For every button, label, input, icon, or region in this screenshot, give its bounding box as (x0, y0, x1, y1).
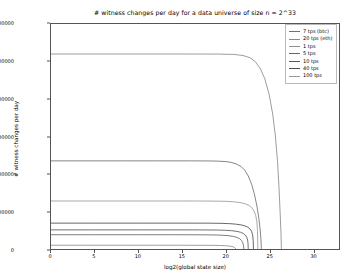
x-tick-mark (94, 250, 95, 253)
x-axis-label: log2(global state size) (50, 264, 340, 270)
legend-label: 40 tps (303, 65, 319, 72)
legend-label: 1 tps (303, 43, 316, 50)
y-tick-mark (47, 174, 50, 175)
x-tick-label: 15 (179, 253, 185, 259)
legend-color-swatch (289, 31, 300, 32)
y-axis-label: # witness changes per day (13, 79, 19, 199)
legend-label: 7 tps (btc) (303, 28, 329, 35)
x-tick-mark (182, 250, 183, 253)
x-tick-label: 10 (135, 253, 141, 259)
chart-legend: 7 tps (btc)20 tps (eth)1 tps5 tps10 tps4… (285, 24, 337, 84)
legend-item[interactable]: 7 tps (btc) (289, 28, 332, 35)
legend-label: 20 tps (eth) (303, 35, 332, 42)
series-line (51, 54, 281, 249)
chart-figure: # witness changes per day for a data uni… (0, 0, 358, 279)
legend-color-swatch (289, 39, 300, 40)
legend-color-swatch (289, 68, 300, 69)
legend-color-swatch (289, 46, 300, 47)
x-tick-label: 30 (310, 253, 316, 259)
legend-label: 10 tps (303, 58, 319, 65)
x-tick-mark (50, 250, 51, 253)
chart-title: # witness changes per day for a data uni… (50, 8, 340, 18)
y-tick-label: 1000000 (0, 171, 14, 177)
legend-color-swatch (289, 76, 300, 77)
legend-label: 5 tps (303, 50, 316, 57)
y-tick-label: 500000 (0, 209, 14, 215)
x-tick-label: 5 (92, 253, 95, 259)
legend-item[interactable]: 40 tps (289, 65, 332, 72)
x-tick-mark (226, 250, 227, 253)
y-tick-mark (47, 23, 50, 24)
legend-item[interactable]: 1 tps (289, 43, 332, 50)
legend-color-swatch (289, 53, 300, 54)
x-tick-label: 25 (267, 253, 273, 259)
legend-item[interactable]: 20 tps (eth) (289, 35, 332, 42)
x-tick-mark (138, 250, 139, 253)
x-tick-label: 20 (223, 253, 229, 259)
legend-item[interactable]: 100 tps (289, 72, 332, 79)
y-tick-mark (47, 212, 50, 213)
legend-label: 100 tps (303, 72, 322, 79)
legend-item[interactable]: 10 tps (289, 58, 332, 65)
y-tick-label: 3000000 (0, 20, 14, 26)
y-tick-label: 1500000 (0, 134, 14, 140)
series-line (51, 245, 236, 249)
y-tick-mark (47, 136, 50, 137)
series-line (51, 235, 244, 249)
x-tick-mark (270, 250, 271, 253)
y-tick-mark (47, 98, 50, 99)
y-tick-mark (47, 60, 50, 61)
y-tick-label: 0 (11, 247, 14, 253)
legend-color-swatch (289, 61, 300, 62)
y-tick-label: 2500000 (0, 58, 14, 64)
series-line (51, 230, 248, 249)
legend-item[interactable]: 5 tps (289, 50, 332, 57)
series-line (51, 201, 258, 249)
y-tick-label: 2000000 (0, 96, 14, 102)
x-tick-mark (314, 250, 315, 253)
x-tick-label: 0 (48, 253, 51, 259)
